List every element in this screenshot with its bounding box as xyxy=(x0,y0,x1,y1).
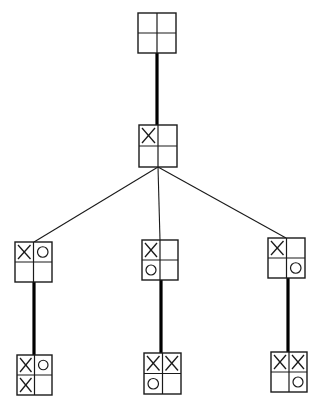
tree-edge xyxy=(34,167,158,242)
board-node: X TL, O TR xyxy=(15,242,52,282)
board-node: X TL TR, O BL xyxy=(144,353,181,394)
tree-edge xyxy=(158,167,286,238)
tree-canvas: empty boardX top-leftX TL, O TRX TL, O B… xyxy=(0,0,321,404)
board-node: X top-left xyxy=(139,125,177,167)
board-node: X TL, O BR xyxy=(268,238,305,278)
board-node: X TL BL, O TR xyxy=(17,355,52,395)
board-node: X TL TR, O BR xyxy=(271,352,307,392)
edges-layer xyxy=(34,53,288,355)
tree-edge xyxy=(158,167,160,240)
board-node: empty board xyxy=(138,13,176,53)
board-node: X TL, O BL xyxy=(142,240,178,280)
